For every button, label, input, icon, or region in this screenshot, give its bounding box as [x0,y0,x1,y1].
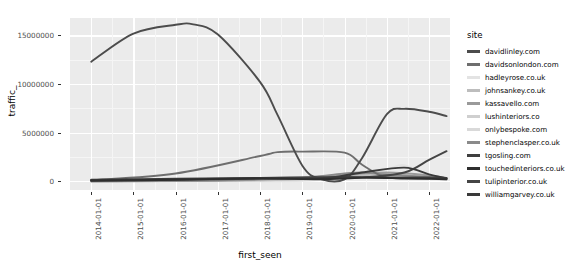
legend-label: hadleyrose.co.uk [485,73,545,82]
x-axis-tick-mark [260,192,261,195]
x-axis-tick-mark [345,192,346,195]
legend-swatch [467,128,480,131]
y-axis-tick-mark [58,35,61,36]
series-line [91,23,446,181]
series-lines [70,18,450,190]
y-axis-tick-label: 10000000 [17,80,54,89]
legend-label: touchedinteriors.co.uk [485,164,565,173]
legend-label: lushinteriors.co [485,112,540,121]
x-axis-tick-mark [429,192,430,195]
legend-item[interactable]: tulipinterior.co.uk [467,175,561,188]
y-axis-tick-label: 5000000 [22,128,54,137]
legend-swatch [467,50,480,53]
legend-label: onlybespoke.com [485,125,547,134]
legend-item[interactable]: hadleyrose.co.uk [467,71,561,84]
x-axis-tick-labels: 2014-01-012015-01-012016-01-012017-01-01… [70,192,450,252]
legend-swatch [467,180,480,183]
x-axis-tick-label: 2017-01-01 [221,198,230,240]
x-axis-title: first_seen [70,250,450,260]
x-axis-tick-label: 2019-01-01 [305,198,314,240]
y-axis-tick-label: 15000000 [17,31,54,40]
legend-swatch [467,193,480,196]
legend-swatch [467,76,480,79]
legend-item[interactable]: touchedinteriors.co.uk [467,162,561,175]
legend-swatch [467,89,480,92]
series-line [91,151,446,180]
y-axis-tick-mark [58,133,61,134]
legend-swatch [467,167,480,170]
y-axis-title: traffic_ [7,71,17,131]
legend-label: tulipinterior.co.uk [485,177,547,186]
y-axis-tick-label: 0 [49,177,54,186]
x-axis-tick-label: 2016-01-01 [179,198,188,240]
legend-item[interactable]: lushinteriors.co [467,110,561,123]
y-axis-tick-mark [58,181,61,182]
legend-item[interactable]: stephenclasper.co.uk [467,136,561,149]
y-axis-tick-mark [58,84,61,85]
legend-swatch [467,63,480,66]
x-axis-tick-label: 2014-01-01 [94,198,103,240]
legend-label: williamgarvey.co.uk [485,190,555,199]
legend-swatch [467,102,480,105]
legend-swatch [467,154,480,157]
legend-item[interactable]: davidlinley.com [467,45,561,58]
legend-label: tgosling.com [485,151,531,160]
legend-swatch [467,115,480,118]
legend-item[interactable]: kassavello.com [467,97,561,110]
legend-item[interactable]: tgosling.com [467,149,561,162]
x-axis-tick-label: 2021-01-01 [390,198,399,240]
x-axis-tick-label: 2022-01-01 [432,198,441,240]
x-axis-tick-mark [218,192,219,195]
legend-item[interactable]: williamgarvey.co.uk [467,188,561,201]
legend-label: johnsankey.co.uk [485,86,545,95]
legend-item[interactable]: johnsankey.co.uk [467,84,561,97]
legend-item[interactable]: davidsonlondon.com [467,58,561,71]
legend-swatch [467,141,480,144]
legend-title: site [467,30,561,40]
legend-label: davidlinley.com [485,47,540,56]
x-axis-tick-label: 2020-01-01 [348,198,357,240]
legend-label: davidsonlondon.com [485,60,559,69]
legend-label: stephenclasper.co.uk [485,138,560,147]
legend-items: davidlinley.comdavidsonlondon.comhadleyr… [467,45,561,201]
plot-panel [70,18,450,190]
legend: site davidlinley.comdavidsonlondon.comha… [467,30,561,201]
x-axis-tick-label: 2015-01-01 [136,198,145,240]
x-axis-tick-label: 2018-01-01 [263,198,272,240]
x-axis-tick-mark [133,192,134,195]
legend-item[interactable]: onlybespoke.com [467,123,561,136]
x-axis-tick-mark [387,192,388,195]
x-axis-tick-mark [302,192,303,195]
x-axis-tick-mark [91,192,92,195]
legend-label: kassavello.com [485,99,539,108]
x-axis-tick-mark [176,192,177,195]
